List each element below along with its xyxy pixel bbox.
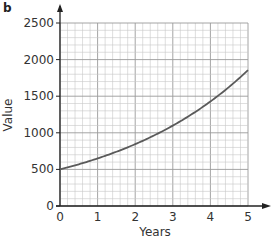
y-tick-label: 2000 xyxy=(23,53,54,67)
chart-grid xyxy=(60,23,248,206)
x-axis-label: Years xyxy=(138,225,171,239)
x-tick-label: 2 xyxy=(131,210,139,224)
x-tick-label: 5 xyxy=(244,210,252,224)
y-axis-label: Value xyxy=(1,99,15,132)
x-tick-label: 0 xyxy=(56,210,64,224)
line-chart: 05001000150020002500 012345 Years Value xyxy=(0,0,272,242)
x-tick-label: 4 xyxy=(207,210,215,224)
x-axis-ticks: 012345 xyxy=(56,210,252,224)
x-tick-label: 3 xyxy=(169,210,177,224)
x-tick-label: 1 xyxy=(94,210,102,224)
y-tick-label: 1000 xyxy=(23,126,54,140)
y-tick-label: 500 xyxy=(31,162,54,176)
y-tick-label: 0 xyxy=(46,199,54,213)
y-tick-label: 2500 xyxy=(23,16,54,30)
y-axis-ticks: 05001000150020002500 xyxy=(23,16,60,213)
y-tick-label: 1500 xyxy=(23,89,54,103)
chart-axes xyxy=(56,4,271,209)
